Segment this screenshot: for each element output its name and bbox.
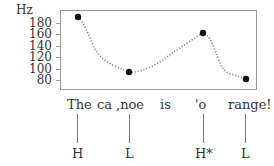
tone-label-h-star: H* <box>195 147 213 161</box>
tone-target-dot <box>126 69 132 75</box>
f0-contour <box>78 17 246 79</box>
word-ca: ca <box>97 98 112 112</box>
tone-label-l-final: L <box>241 147 250 161</box>
word-is: is <box>160 98 171 112</box>
tone-target-dot <box>200 30 206 36</box>
pitch-plot <box>0 0 274 166</box>
word-o: 'o <box>195 98 206 112</box>
tone-association-lines <box>78 114 246 143</box>
tone-target-dot <box>75 14 81 20</box>
y-axis-ticks <box>56 24 60 81</box>
plot-frame <box>61 11 257 90</box>
tone-label-h: H <box>72 147 83 161</box>
tone-target-dot <box>243 76 249 82</box>
word-noe: ,noe <box>116 98 144 112</box>
word-range: range! <box>228 98 272 112</box>
word-the: The <box>67 98 92 112</box>
tone-label-l: L <box>125 147 134 161</box>
